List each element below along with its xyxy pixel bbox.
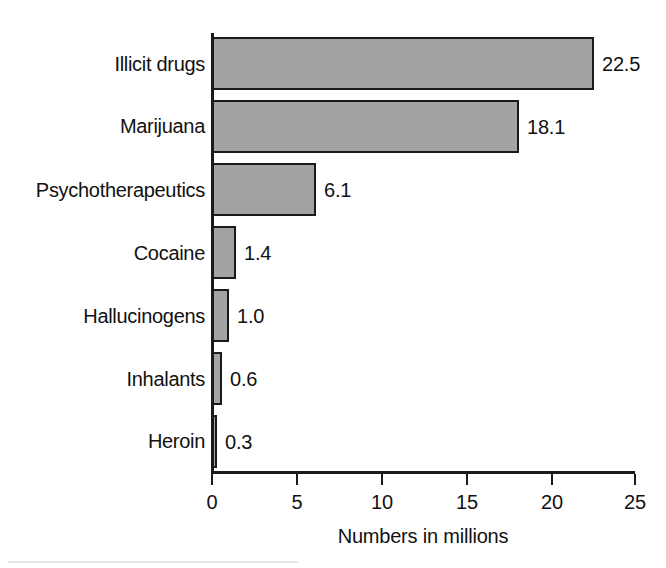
category-label-heroin: Heroin: [0, 430, 205, 452]
x-tick-10: [381, 474, 383, 485]
x-tick-0: [211, 474, 213, 485]
y-axis-line: [211, 33, 214, 473]
value-label-hallucinogens: 1.0: [237, 305, 264, 327]
category-label-row: Inhalants: [0, 368, 205, 390]
x-axis-title: Numbers in millions: [211, 524, 635, 548]
category-label-illicit-drugs: Illicit drugs: [0, 53, 205, 75]
x-tick-label-20: 20: [522, 490, 582, 514]
category-label-psychotherapeutics: Psychotherapeutics: [0, 179, 205, 201]
x-tick-label-15: 15: [437, 490, 497, 514]
x-tick-5: [296, 474, 298, 485]
value-label-cocaine: 1.4: [244, 242, 271, 264]
x-tick-15: [466, 474, 468, 485]
category-label-inhalants: Inhalants: [0, 368, 205, 390]
bar-cocaine: [212, 226, 236, 279]
x-tick-25: [634, 474, 636, 485]
value-label-inhalants: 0.6: [230, 368, 257, 390]
value-label-psychotherapeutics: 6.1: [324, 179, 351, 201]
bar-hallucinogens: [212, 289, 229, 342]
scan-edge-artifact: [8, 561, 298, 563]
bar-psychotherapeutics: [212, 163, 316, 216]
value-label-illicit-drugs: 22.5: [602, 53, 640, 75]
category-label-row: Heroin: [0, 430, 205, 452]
bar-chart: Illicit drugs Marijuana Psychotherapeuti…: [0, 0, 666, 568]
category-label-row: Hallucinogens: [0, 305, 205, 327]
bar-illicit-drugs: [212, 37, 594, 90]
x-tick-20: [551, 474, 553, 485]
category-label-row: Illicit drugs: [0, 53, 205, 75]
category-label-row: Marijuana: [0, 115, 205, 137]
x-tick-label-0: 0: [182, 490, 242, 514]
value-label-heroin: 0.3: [225, 431, 252, 453]
value-label-marijuana: 18.1: [527, 116, 565, 138]
x-tick-label-25: 25: [605, 490, 665, 514]
bar-marijuana: [212, 100, 519, 153]
x-axis-line: [211, 471, 635, 474]
category-label-row: Psychotherapeutics: [0, 179, 205, 201]
category-label-cocaine: Cocaine: [0, 242, 205, 264]
category-label-row: Cocaine: [0, 242, 205, 264]
x-tick-label-10: 10: [352, 490, 412, 514]
category-label-hallucinogens: Hallucinogens: [0, 305, 205, 327]
category-label-marijuana: Marijuana: [0, 115, 205, 137]
x-tick-label-5: 5: [267, 490, 327, 514]
